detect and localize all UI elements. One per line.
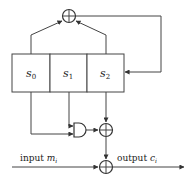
stream-cipher-diagram: s0 s1 s2 input mi output ci — [0, 0, 193, 183]
feedback-xor-gate — [63, 10, 76, 23]
wire-s0-to-and — [31, 92, 73, 134]
wire-s1-to-and — [69, 92, 73, 126]
input-label: input mi — [20, 153, 57, 164]
encryption-xor-gate — [100, 161, 113, 174]
keystream-xor-gate — [100, 124, 113, 137]
wire-s2-to-feedback — [76, 21, 106, 54]
wire-s0-to-feedback — [31, 21, 62, 54]
shift-register: s0 s1 s2 — [12, 54, 124, 92]
output-label: output ci — [117, 153, 157, 164]
and-gate — [74, 123, 86, 137]
